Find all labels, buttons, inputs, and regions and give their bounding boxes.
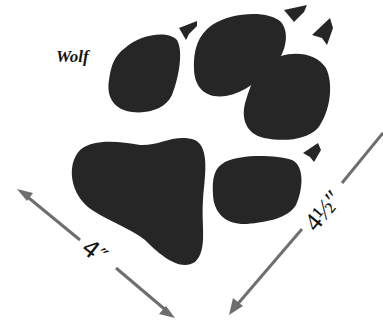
toe-pad-4 [213, 156, 302, 224]
species-label: Wolf [56, 47, 89, 67]
claw-3 [312, 18, 333, 45]
claw-2 [284, 5, 307, 22]
toe-pad-1 [108, 34, 180, 112]
claw-4 [303, 143, 321, 162]
claw-1 [179, 21, 197, 40]
